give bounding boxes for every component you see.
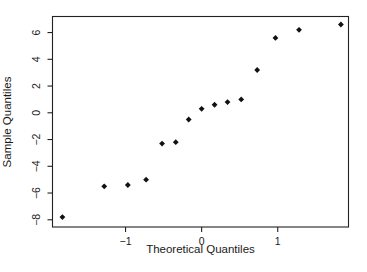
data-point	[254, 67, 260, 73]
y-tick-label: 4	[31, 56, 43, 62]
y-tick-label: −4	[31, 160, 43, 172]
data-point	[159, 141, 165, 147]
y-tick-label: 6	[31, 29, 43, 35]
data-points	[59, 22, 343, 220]
x-tick-label: 1	[275, 235, 281, 247]
data-point	[212, 102, 218, 108]
data-point	[101, 183, 107, 189]
data-point	[199, 106, 205, 112]
y-tick-label: −6	[31, 187, 43, 199]
data-point	[225, 99, 231, 105]
qq-plot-figure: −101 −8−6−4−20246 Theoretical Quantiles …	[0, 0, 367, 272]
data-point	[59, 214, 65, 220]
y-tick-label: −2	[31, 133, 43, 145]
data-point	[125, 182, 131, 188]
y-tick-label: −8	[31, 214, 43, 226]
data-point	[273, 35, 279, 41]
x-axis-title: Theoretical Quantiles	[146, 243, 255, 255]
data-point	[173, 139, 179, 145]
qq-plot-canvas: −101 −8−6−4−20246 Theoretical Quantiles …	[0, 0, 367, 272]
data-point	[296, 27, 302, 33]
data-point	[143, 177, 149, 183]
plot-border	[53, 17, 349, 228]
plot-box	[53, 17, 349, 228]
y-axis: −8−6−4−20246	[31, 29, 53, 225]
data-point	[338, 22, 344, 28]
y-tick-label: 2	[31, 83, 43, 89]
y-tick-label: 0	[31, 110, 43, 116]
y-axis-title: Sample Quantiles	[1, 76, 13, 167]
x-tick-label: −1	[120, 235, 132, 247]
data-point	[186, 117, 192, 123]
data-point	[238, 97, 244, 103]
